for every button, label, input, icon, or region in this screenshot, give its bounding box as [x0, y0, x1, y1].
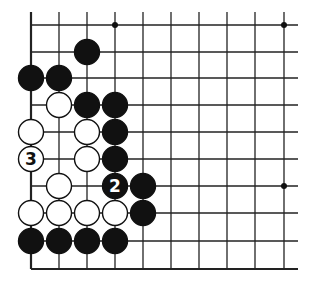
star-point-icon: [281, 22, 287, 28]
black-stone: [19, 229, 44, 254]
go-board: 32: [0, 0, 319, 289]
board-grid: [31, 12, 298, 269]
black-stone: [19, 66, 44, 91]
white-stone: 3: [19, 147, 44, 172]
black-stone: [103, 120, 128, 145]
black-stone: [75, 40, 100, 65]
black-stone: [75, 229, 100, 254]
white-stone: [47, 93, 72, 118]
black-stone: 2: [103, 174, 128, 199]
black-stone: [131, 201, 156, 226]
white-stone: [75, 120, 100, 145]
white-stone: [19, 120, 44, 145]
black-stone: [47, 66, 72, 91]
white-stone: [47, 201, 72, 226]
black-stone: [103, 147, 128, 172]
white-stone: [103, 201, 128, 226]
black-stone: [103, 93, 128, 118]
black-stone: [131, 174, 156, 199]
black-stone: [75, 93, 100, 118]
white-stone: [75, 147, 100, 172]
star-point-icon: [281, 183, 287, 189]
move-number-label: 3: [25, 149, 37, 169]
star-point-icon: [112, 22, 118, 28]
black-stone: [103, 229, 128, 254]
white-stone: [19, 201, 44, 226]
white-stone: [75, 201, 100, 226]
white-stone: [47, 174, 72, 199]
black-stone: [47, 229, 72, 254]
move-number-label: 2: [109, 176, 121, 196]
